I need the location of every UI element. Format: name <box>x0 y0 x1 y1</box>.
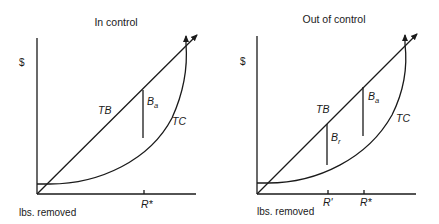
tick-label-r-star: R* <box>141 198 154 210</box>
gap-ba-label: Ba <box>368 90 379 105</box>
gap-br-label: Br <box>331 131 341 146</box>
tick-label-r-prime: R' <box>323 196 334 208</box>
gap-ba-label: Ba <box>147 95 158 110</box>
panel-title: In control <box>94 16 137 28</box>
tb-label: TB <box>98 104 111 116</box>
tc-curve <box>37 44 186 184</box>
x-axis-label: lbs. removed <box>19 207 76 218</box>
tc-label: TC <box>172 115 186 127</box>
tc-curve <box>257 44 406 183</box>
x-axis-label: lbs. removed <box>257 206 314 217</box>
tb-label: TB <box>316 103 329 115</box>
panel-title: Out of control <box>302 13 365 25</box>
panel-in-control: In control $ TB TC Ba R* lbs. removed <box>19 16 197 218</box>
y-axis-label: $ <box>240 56 246 67</box>
tick-label-r-star: R* <box>360 196 373 208</box>
tc-label: TC <box>396 112 410 124</box>
panel-out-of-control: Out of control $ TB TC Br Ba R' R* lbs. … <box>240 13 417 217</box>
diagram-canvas: In control $ TB TC Ba R* lbs. removed Ou… <box>0 0 439 224</box>
y-axis-label: $ <box>19 57 25 68</box>
